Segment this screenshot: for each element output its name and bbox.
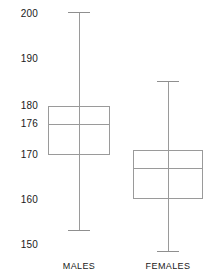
category-labels: MALES FEMALES bbox=[0, 0, 213, 279]
category-label-females: FEMALES bbox=[133, 261, 203, 271]
boxplot-chart: 200 190 180 176 170 160 150 MALES FEMALE… bbox=[0, 0, 213, 279]
category-label-males: MALES bbox=[49, 261, 109, 271]
